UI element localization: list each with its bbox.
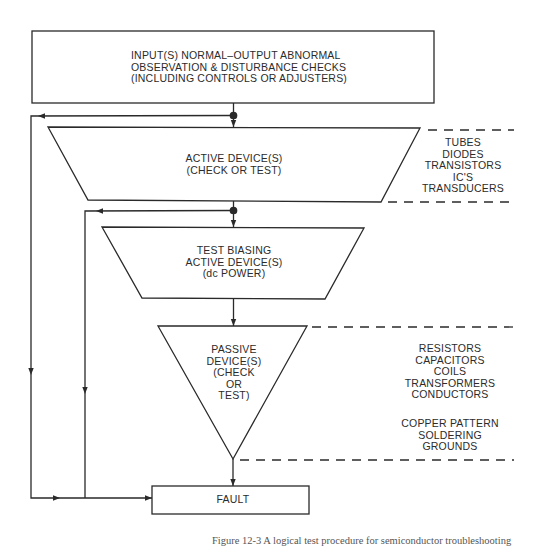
fault-label: FAULT [190, 494, 276, 506]
arrow-head-outer-right [53, 495, 60, 500]
passive-other-item: COPPER PATTERN [390, 418, 510, 430]
active-component-item: TRANSISTORS [403, 160, 523, 172]
arrow-head-outer-left [38, 113, 45, 119]
test-biasing-line: (dc POWER) [179, 268, 289, 280]
arrow-head-into-biasing [231, 220, 236, 227]
arrow-head-outer-down [28, 368, 33, 375]
active-device-label: ACTIVE DEVICE(S) (CHECK OR TEST) [184, 153, 284, 176]
test-biasing-line: TEST BIASING [179, 245, 289, 257]
input-checks-line: INPUT(S) NORMAL–OUTPUT ABNORMAL [131, 50, 347, 62]
active-component-item: TUBES [403, 137, 523, 149]
passive-component-item: RESISTORS [390, 343, 510, 355]
passive-device-line: (CHECK [199, 367, 269, 379]
arrow-head-inner-down [82, 387, 87, 394]
active-component-item: TRANSDUCERS [403, 183, 523, 195]
passive-other-list: COPPER PATTERN SOLDERING GROUNDS [390, 418, 510, 453]
passive-other-item: GROUNDS [390, 441, 510, 453]
passive-components-list: RESISTORS CAPACITORS COILS TRANSFORMERS … [390, 343, 510, 401]
passive-device-label: PASSIVE DEVICE(S) (CHECK OR TEST) [199, 344, 269, 402]
arrow-head-inner-left [96, 208, 103, 214]
active-components-list: TUBES DIODES TRANSISTORS IC'S TRANSDUCER… [403, 137, 523, 195]
passive-component-item: COILS [390, 366, 510, 378]
passive-device-line: TEST) [199, 390, 269, 402]
input-checks-line: (INCLUDING CONTROLS OR ADJUSTERS) [131, 73, 347, 85]
arrow-head-into-passive [231, 319, 236, 326]
figure-caption: Figure 12-3 A logical test procedure for… [212, 535, 511, 546]
active-device-line: ACTIVE DEVICE(S) [184, 153, 284, 165]
test-biasing-label: TEST BIASING ACTIVE DEVICE(S) (dc POWER) [179, 245, 289, 280]
arrow-head-into-fault-top [230, 479, 235, 486]
input-checks-label: INPUT(S) NORMAL–OUTPUT ABNORMAL OBSERVAT… [131, 50, 347, 85]
passive-component-item: CONDUCTORS [390, 389, 510, 401]
arrow-head-into-fault-left [145, 495, 152, 500]
active-device-line: (CHECK OR TEST) [184, 165, 284, 177]
passive-device-line: PASSIVE [199, 344, 269, 356]
arrow-head-into-active [231, 120, 236, 127]
